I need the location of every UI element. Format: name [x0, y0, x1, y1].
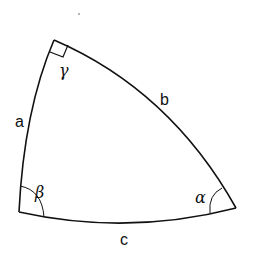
side-b-label: b: [160, 91, 169, 108]
right-angle-marker: [50, 45, 68, 57]
side-b-arc: [54, 40, 236, 208]
side-c-arc: [19, 208, 236, 223]
spherical-triangle-figure: a b c γ β α: [0, 0, 254, 257]
alpha-angle-label: α: [195, 188, 206, 207]
stray-dot: [78, 13, 80, 15]
side-c-label: c: [120, 231, 128, 248]
side-a-label: a: [15, 113, 24, 130]
gamma-angle-label: γ: [59, 61, 69, 80]
diagram-canvas: a b c γ β α: [0, 0, 254, 257]
beta-angle-label: β: [34, 183, 44, 202]
alpha-angle-arc: [210, 188, 222, 213]
